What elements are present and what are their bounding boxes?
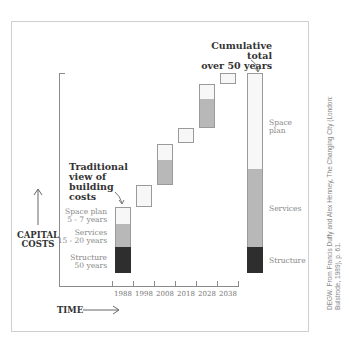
right-arrow-icon [82,304,120,316]
credit-line-2: Bulstrode, 1989), p. 61. [334,96,342,310]
pointer-arrow-icon [248,59,262,73]
x-tick [217,281,218,286]
label-space-plan: Space plan [269,119,292,135]
x-tick [238,281,239,286]
x-tick [59,281,60,286]
x-tick-label-2038: 2038 [217,290,239,298]
bar-2028-services [199,99,215,128]
up-arrow-icon [33,188,43,226]
bar-1988-services [115,224,131,247]
cumulative-structure [247,247,263,273]
label-structure-lifespan: Structure 50 years [55,254,107,270]
bar-2018-space-plan [178,128,194,143]
cumulative-space-plan [247,73,263,170]
bar-2038-space-plan [220,73,236,84]
bar-1998-space-plan [136,185,152,207]
label-space-plan-lifespan: Space plan 5 - 7 years [55,208,107,224]
x-tick [175,281,176,286]
x-tick-label-2028: 2028 [196,290,218,298]
x-axis-line [59,286,239,287]
bar-1988-structure [115,247,131,273]
axis-title-line: COSTS [14,240,62,249]
x-tick-label-1988: 1988 [112,290,134,298]
label-structure: Structure [269,257,306,265]
label-line: 5 - 7 years [55,216,107,224]
bar-1988-space-plan [115,207,131,225]
y-axis-title: CAPITAL COSTS [14,231,62,249]
x-tick-label-2008: 2008 [154,290,176,298]
y-axis-cap [59,73,65,74]
label-services: Services [269,205,301,213]
bar-2028-space-plan [199,84,215,100]
x-tick [154,281,155,286]
bar-2008-services [157,160,173,185]
annotation-line: Cumulative total [190,41,272,61]
label-line: 50 years [55,262,107,270]
x-tick [112,281,113,286]
image-credit: DEGW. From Francis Duffy and Alex Henney… [326,96,342,310]
x-tick-label-2018: 2018 [175,290,197,298]
x-tick [133,281,134,286]
pointer-arrow-icon [113,190,125,206]
cumulative-services [247,169,263,247]
credit-line-1: DEGW. From Francis Duffy and Alex Henney… [326,96,334,310]
x-tick-label-1998: 1998 [133,290,155,298]
bar-2008-space-plan [157,144,173,161]
label-line: plan [269,127,292,135]
x-tick [196,281,197,286]
x-axis-title: TIME [57,306,83,315]
